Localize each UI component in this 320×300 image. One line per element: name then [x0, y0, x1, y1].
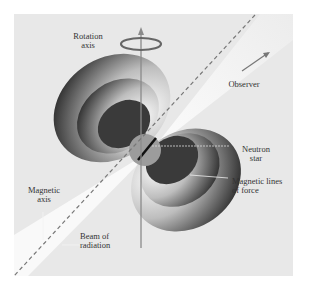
rotation-axis-label: Rotation axis: [68, 32, 108, 50]
neutron-star-label: Neutron star: [236, 145, 276, 163]
magnetic-axis-label: Magnetic axis: [24, 186, 64, 204]
beam-of-radiation-label: Beam of radiation: [80, 232, 114, 250]
magnetic-lines-label: Magnetic lines of force: [232, 177, 288, 195]
observer-label: Observer: [222, 80, 266, 89]
